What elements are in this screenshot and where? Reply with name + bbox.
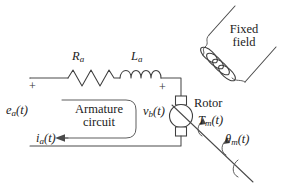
polarity-plus-rotor: + [159,81,166,93]
field-lead-kink-lower [232,78,245,82]
rotor-circle [170,105,193,128]
angular-position-label: θm(t) [225,133,249,147]
resistor-symbol [68,70,120,86]
fixed-field-label: Fixedfield [219,23,269,49]
brush-bottom [176,127,187,136]
source-voltage-label: ea(t) [6,104,28,118]
rotor-label: Rotor [194,97,222,110]
back-emf-label: vb(t) [143,105,165,119]
field-lead-kink [203,35,209,55]
inductor-symbol [120,71,161,79]
armature-current-label: ia(t) [36,132,56,146]
current-arrow-head [55,134,65,142]
resistor-label: Ra [72,50,84,64]
inductor-label: La [131,50,142,64]
brush-top [176,96,187,105]
motor-torque-label: Tm(t) [198,114,223,128]
shaft-end-curl [233,160,238,177]
field-lead-lower [245,47,276,82]
dc-motor-diagram: Ra La Fixedfield Rotor Armaturecircuit e… [0,0,283,187]
armature-circuit-label: Armaturecircuit [68,103,130,129]
polarity-plus-source: + [29,80,36,92]
